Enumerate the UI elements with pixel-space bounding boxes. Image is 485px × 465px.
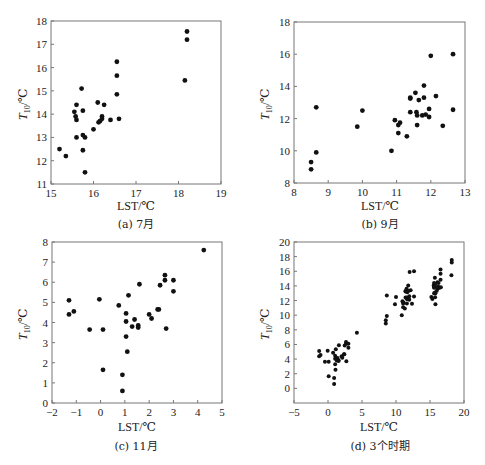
caption-d: (d) 3个时期 (280, 437, 480, 453)
data-point (439, 278, 443, 282)
data-point (394, 295, 398, 299)
y-label-symbol: T (258, 333, 272, 340)
data-point (410, 302, 414, 306)
y-tick-label: 20 (279, 236, 291, 248)
data-point (385, 314, 389, 318)
y-tick-label: 8 (285, 324, 291, 336)
data-point (337, 343, 341, 347)
caption-c: (c) 11月 (36, 437, 236, 453)
data-point (400, 313, 404, 317)
y-label-subscript: 10 (23, 105, 32, 113)
data-point (409, 288, 413, 292)
data-point (333, 362, 337, 366)
data-point (439, 285, 443, 289)
y-axis-label-b: T10/℃ (258, 88, 274, 119)
data-point (385, 293, 389, 297)
data-point (433, 295, 437, 299)
data-point (317, 349, 321, 353)
y-label-symbol: T (16, 113, 30, 120)
data-point (346, 342, 350, 346)
data-point (403, 307, 407, 311)
data-point (334, 347, 338, 351)
data-point (439, 267, 443, 271)
data-point (355, 331, 359, 335)
caption-b: (b) 9月 (280, 215, 480, 231)
y-tick-label: 0 (285, 382, 291, 394)
data-point (407, 298, 411, 302)
data-point (384, 322, 388, 326)
data-point (407, 294, 411, 298)
data-point (408, 270, 412, 274)
y-label-subscript: 10 (265, 325, 274, 333)
y-label-subscript: 10 (23, 325, 32, 333)
data-point (326, 349, 330, 353)
caption-a: (a) 7月 (36, 215, 236, 231)
plot-frame (294, 242, 464, 403)
y-tick-label: 10 (279, 309, 291, 321)
y-label-symbol: T (16, 333, 30, 340)
data-point (332, 376, 336, 380)
data-point (393, 302, 397, 306)
data-point (401, 300, 405, 304)
data-point (449, 273, 453, 277)
y-tick-label: 6 (285, 338, 291, 350)
data-point (412, 295, 416, 299)
data-point (327, 360, 331, 364)
panel-d: −50510152002468101214161820 (0, 0, 485, 465)
y-label-unit: /℃ (16, 88, 30, 105)
data-point (327, 374, 331, 378)
x-axis-label-d: LST/℃ (319, 420, 439, 435)
y-label-unit: /℃ (16, 308, 30, 325)
y-tick-label: 16 (279, 265, 291, 277)
y-label-unit: /℃ (258, 88, 272, 105)
y-axis-label-a: T10/℃ (16, 88, 32, 119)
x-tick-label: −5 (288, 406, 300, 418)
x-axis-label-a: LST/℃ (76, 199, 196, 214)
y-tick-label: 18 (279, 251, 291, 263)
y-tick-label: 14 (279, 280, 291, 292)
data-point (323, 360, 327, 364)
data-point (433, 302, 437, 306)
y-axis-label-c: T10/℃ (16, 308, 32, 339)
data-point (344, 359, 348, 363)
x-tick-label: 0 (325, 406, 331, 418)
data-point (405, 301, 409, 305)
data-point (406, 284, 410, 288)
data-point (319, 353, 323, 357)
data-point (332, 382, 336, 386)
y-tick-label: 4 (285, 353, 291, 365)
y-label-symbol: T (258, 113, 272, 120)
data-point (346, 346, 350, 350)
x-tick-label: 15 (425, 406, 437, 418)
x-axis-label-b: LST/℃ (320, 199, 440, 214)
y-tick-label: 2 (285, 368, 291, 380)
y-tick-label: 12 (279, 295, 290, 307)
y-axis-label-d: T10/℃ (258, 308, 274, 339)
data-point (342, 352, 346, 356)
scatter-plot-d: −50510152002468101214161820 (0, 0, 485, 465)
data-point (337, 359, 341, 363)
data-point (412, 269, 416, 273)
x-tick-label: 5 (359, 406, 365, 418)
y-label-unit: /℃ (258, 308, 272, 325)
x-tick-label: 10 (391, 406, 403, 418)
data-point (433, 276, 437, 280)
x-axis-label-c: LST/℃ (77, 420, 197, 435)
data-point (450, 260, 454, 264)
y-label-subscript: 10 (265, 105, 274, 113)
x-tick-label: 20 (459, 406, 471, 418)
data-point (333, 368, 337, 372)
data-point (439, 272, 443, 276)
